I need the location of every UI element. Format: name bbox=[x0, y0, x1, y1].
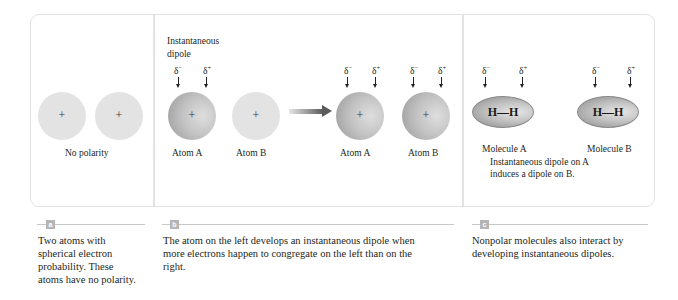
delta-minus-label: δ− bbox=[340, 63, 356, 76]
nucleus-plus: + bbox=[95, 108, 143, 122]
delta-minus-label: δ− bbox=[406, 63, 422, 76]
caption-rule bbox=[472, 224, 648, 225]
induced-dipole-note-1: Instantaneous dipole on A bbox=[490, 156, 589, 168]
molecule-b-label: Molecule B bbox=[587, 143, 632, 155]
down-arrow-icon bbox=[522, 77, 523, 85]
molecule-a-label: Molecule A bbox=[482, 143, 527, 155]
nucleus-plus: + bbox=[336, 108, 384, 122]
atom-a-dipole: + bbox=[168, 92, 216, 140]
down-arrow-icon bbox=[413, 77, 414, 85]
nucleus-plus: + bbox=[402, 108, 450, 122]
atom-a-label: Atom A bbox=[340, 147, 370, 159]
transition-arrow-icon bbox=[289, 109, 323, 114]
molecule-a-h2: H—H bbox=[472, 96, 534, 128]
caption-badge-b: b bbox=[170, 220, 179, 229]
nucleus-plus: + bbox=[38, 108, 86, 122]
caption-text-a: Two atoms with spherical electron probab… bbox=[38, 234, 138, 286]
caption-text-c: Nonpolar molecules also interact by deve… bbox=[472, 234, 648, 260]
down-arrow-icon bbox=[347, 77, 348, 85]
atom-b-label: Atom B bbox=[408, 147, 438, 159]
atom-a-label: Atom A bbox=[172, 147, 202, 159]
panel-divider-bc bbox=[462, 14, 464, 207]
caption-rule bbox=[162, 224, 454, 225]
nucleus-plus: + bbox=[232, 108, 280, 122]
delta-plus-label: δ+ bbox=[515, 63, 531, 76]
atom-b-label: Atom B bbox=[236, 147, 266, 159]
nucleus-plus: + bbox=[168, 108, 216, 122]
delta-minus-label: δ− bbox=[170, 63, 186, 76]
atom-b-induced-dipole: + bbox=[402, 92, 450, 140]
induced-dipole-note-2: induces a dipole on B. bbox=[490, 168, 575, 180]
down-arrow-icon bbox=[206, 77, 207, 85]
atom-neutral-right: + bbox=[95, 92, 143, 140]
delta-plus-label: δ+ bbox=[623, 63, 639, 76]
delta-minus-label: δ− bbox=[478, 63, 494, 76]
atom-b-neutral: + bbox=[232, 92, 280, 140]
delta-plus-label: δ+ bbox=[434, 63, 450, 76]
no-polarity-label: No polarity bbox=[65, 147, 109, 159]
panel-divider-ab bbox=[153, 14, 155, 207]
delta-plus-label: δ+ bbox=[368, 63, 384, 76]
molecule-b-h2: H—H bbox=[577, 96, 639, 128]
instantaneous-dipole-heading-2: dipole bbox=[167, 48, 191, 60]
down-arrow-icon bbox=[485, 77, 486, 85]
down-arrow-icon bbox=[375, 77, 376, 85]
delta-minus-label: δ− bbox=[588, 63, 604, 76]
atom-neutral-left: + bbox=[38, 92, 86, 140]
down-arrow-icon bbox=[630, 77, 631, 85]
atom-a-dipole: + bbox=[336, 92, 384, 140]
instantaneous-dipole-heading-1: Instantaneous bbox=[167, 35, 219, 47]
caption-badge-a: a bbox=[46, 220, 55, 229]
down-arrow-icon bbox=[441, 77, 442, 85]
delta-plus-label: δ+ bbox=[199, 63, 215, 76]
down-arrow-icon bbox=[595, 77, 596, 85]
caption-badge-c: c bbox=[480, 220, 489, 229]
caption-text-b: The atom on the left develops an instant… bbox=[163, 234, 433, 273]
down-arrow-icon bbox=[178, 77, 179, 85]
